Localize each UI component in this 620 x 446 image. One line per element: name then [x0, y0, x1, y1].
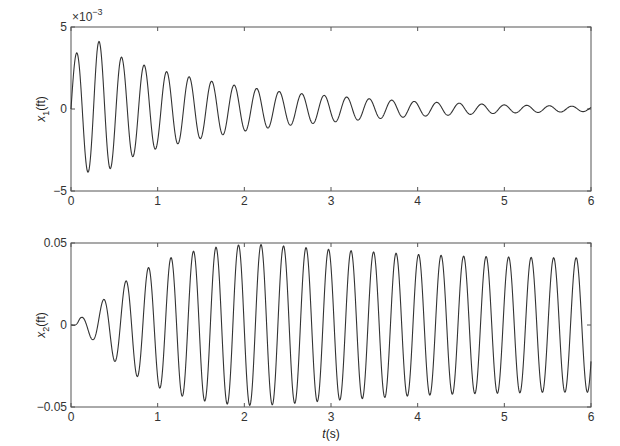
- x-tick-label: 3: [328, 194, 335, 208]
- x-tick-label: 2: [241, 410, 248, 424]
- x-tick-label: 3: [328, 410, 335, 424]
- x-tick-label: 2: [241, 194, 248, 208]
- x2-y-axis-label: x2(ft): [34, 312, 51, 339]
- x-tick-label: 5: [501, 194, 508, 208]
- y-tick-label: −0.05: [37, 400, 68, 414]
- x2-x-axis-label: t(s): [322, 427, 339, 441]
- chart-figure: 0123456 −505 ×10−3 x1(ft) 0123456 −0.050…: [0, 0, 620, 446]
- x1-exponent-label: ×10−3: [72, 7, 103, 24]
- x-tick-label: 0: [68, 410, 75, 424]
- y-tick-label: 5: [60, 20, 67, 34]
- y-tick-label: 0: [60, 318, 67, 332]
- x-tick-label: 1: [154, 194, 161, 208]
- x1-axes-frame: [71, 27, 591, 191]
- y-tick-label: 0.05: [44, 236, 68, 250]
- y-tick-label: 0: [60, 102, 67, 116]
- x1-x-ticks: 0123456: [68, 27, 595, 208]
- x-tick-label: 6: [588, 410, 595, 424]
- subplot-x1: 0123456 −505 ×10−3 x1(ft): [34, 7, 595, 208]
- subplot-x2: 0123456 −0.0500.05 x2(ft) t(s): [34, 236, 595, 441]
- x-tick-label: 0: [68, 194, 75, 208]
- x-tick-label: 1: [154, 410, 161, 424]
- x-tick-label: 4: [414, 194, 421, 208]
- x1-y-axis-label: x1(ft): [34, 96, 51, 123]
- x-tick-label: 5: [501, 410, 508, 424]
- y-tick-label: −5: [53, 184, 67, 198]
- x-tick-label: 6: [588, 194, 595, 208]
- x1-series-line: [71, 42, 591, 173]
- x-tick-label: 4: [414, 410, 421, 424]
- x2-series-line: [71, 245, 591, 406]
